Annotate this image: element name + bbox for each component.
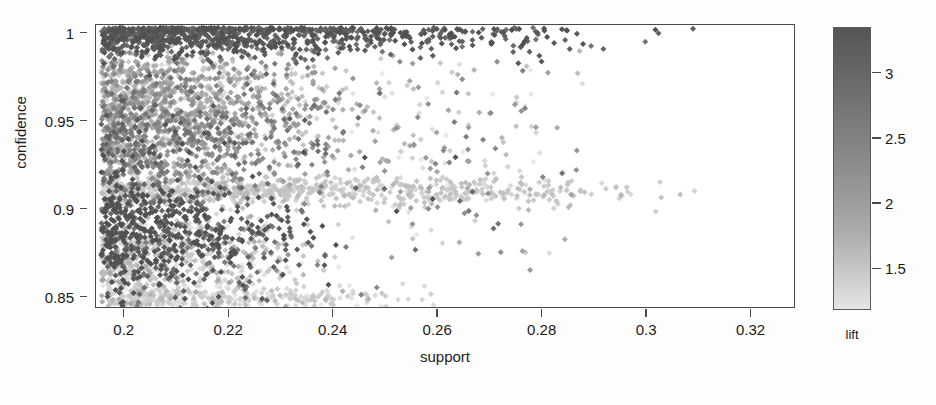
x-tick-mark	[541, 309, 542, 317]
plot-panel	[95, 24, 795, 308]
x-tick-mark	[645, 309, 646, 317]
x-tick-mark	[332, 309, 333, 317]
y-tick-label: 0.9	[53, 201, 74, 216]
x-tick-mark	[750, 309, 751, 317]
lift-colorbar: 1.522.53	[833, 27, 871, 310]
colorbar-tick-label: 3	[885, 64, 893, 81]
y-tick-label: 0.95	[45, 113, 74, 128]
x-tick-label: 0.22	[214, 322, 243, 337]
colorbar-tick-mark	[872, 202, 881, 203]
y-tick-mark	[80, 208, 87, 209]
x-axis-label: support	[95, 348, 795, 365]
x-tick-mark	[436, 309, 437, 317]
x-tick-label: 0.24	[318, 322, 347, 337]
colorbar-tick-mark	[872, 137, 881, 138]
colorbar-tick-label: 2	[885, 195, 893, 212]
x-tick-label: 0.32	[736, 322, 765, 337]
colorbar-tick-label: 2.5	[885, 129, 906, 146]
scatter-points-canvas	[96, 25, 795, 308]
y-tick-mark	[80, 32, 87, 33]
x-tick-label: 0.3	[636, 322, 657, 337]
y-tick-mark	[80, 120, 87, 121]
y-tick-label: 1	[66, 25, 74, 40]
y-tick-label: 0.85	[45, 289, 74, 304]
y-tick-mark	[80, 296, 87, 297]
colorbar-title: lift	[833, 327, 871, 342]
colorbar-tick-mark	[872, 72, 881, 73]
colorbar-tick-mark	[872, 268, 881, 269]
scatter-plot-figure: confidence 0.850.90.951 0.20.220.240.260…	[0, 0, 936, 405]
x-tick-label: 0.26	[423, 322, 452, 337]
colorbar-gradient	[833, 27, 871, 310]
x-tick-label: 0.28	[527, 322, 556, 337]
y-axis-label: confidence	[12, 63, 29, 203]
x-tick-label: 0.2	[113, 322, 134, 337]
y-axis-label-container: confidence	[2, 0, 76, 284]
x-tick-mark	[228, 309, 229, 317]
colorbar-tick-label: 1.5	[885, 260, 906, 277]
x-tick-mark	[123, 309, 124, 317]
